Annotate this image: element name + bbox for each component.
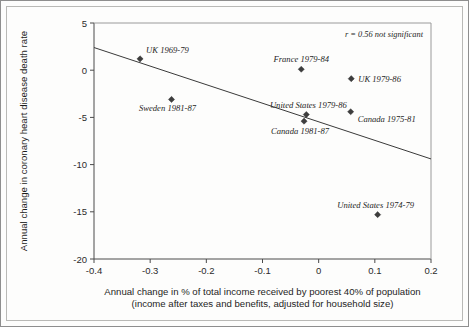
- scatter-chart: -0.4-0.3-0.2-0.100.10.250-5-10-15-20 UK …: [1, 1, 469, 327]
- x-tick-label: 0.2: [424, 265, 437, 276]
- data-point-marker: [375, 212, 381, 218]
- annotation-label: r = 0.56 not significant: [345, 30, 424, 39]
- data-point-label: France 1979-84: [272, 54, 329, 64]
- x-tick-label: -0.1: [254, 265, 270, 276]
- y-tick-label: -10: [73, 159, 87, 170]
- data-point-label: Canada 1975-81: [358, 114, 416, 124]
- data-point-marker: [168, 96, 174, 102]
- y-tick-label: 5: [82, 18, 87, 29]
- axis-tick-labels: -0.4-0.3-0.2-0.100.10.250-5-10-15-20: [73, 18, 437, 277]
- figure-container: -0.4-0.3-0.2-0.100.10.250-5-10-15-20 UK …: [0, 0, 469, 327]
- plot-frame: [94, 23, 431, 259]
- y-tick-label: -15: [73, 206, 87, 217]
- data-point-marker: [348, 76, 354, 82]
- data-point-marker: [137, 56, 143, 62]
- data-point-marker: [348, 109, 354, 115]
- data-point-labels: UK 1969-79Sweden 1981-87France 1979-84UK…: [139, 45, 416, 210]
- y-tick-label: -5: [79, 112, 87, 123]
- y-axis-title: Annual change in coronary heart disease …: [18, 31, 29, 251]
- data-point-marker: [301, 118, 307, 124]
- data-point-label: Sweden 1981-87: [139, 103, 197, 113]
- x-tick-label: -0.2: [198, 265, 214, 276]
- data-point-label: United States 1974-79: [337, 200, 415, 210]
- x-tick-label: -0.3: [142, 265, 158, 276]
- correlation-annotation: r = 0.56 not significant: [345, 30, 424, 39]
- y-tick-label: -20: [73, 254, 87, 265]
- data-point-label: United States 1979-86: [270, 100, 348, 110]
- data-point-marker: [298, 66, 304, 72]
- data-point-label: UK 1969-79: [146, 45, 189, 55]
- x-tick-label: -0.4: [86, 265, 102, 276]
- y-tick-label: 0: [82, 65, 87, 76]
- data-points: [137, 56, 381, 218]
- data-point-label: UK 1979-86: [358, 74, 401, 84]
- x-axis-title-line1: Annual change in % of total income recei…: [104, 286, 420, 297]
- data-point-label: Canada 1981-87: [271, 126, 330, 136]
- x-tick-label: 0.1: [368, 265, 381, 276]
- x-axis-title-line2: (income after taxes and benefits, adjust…: [132, 298, 394, 309]
- x-tick-label: 0: [316, 265, 321, 276]
